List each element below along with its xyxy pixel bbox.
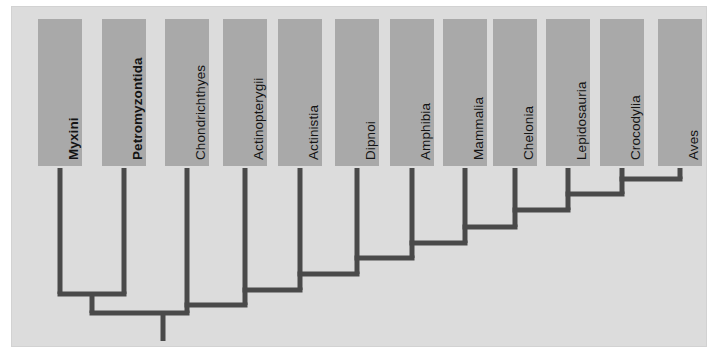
cladogram-figure: MyxiniPetromyzontidaChondrichthyesActino… [0,0,726,359]
tree-branch-layer [0,0,726,359]
